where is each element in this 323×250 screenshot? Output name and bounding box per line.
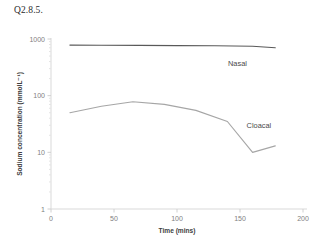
y-tick-label: 10 xyxy=(37,149,45,156)
series-line-cloacal xyxy=(70,102,275,153)
x-tick-label: 50 xyxy=(110,215,118,222)
figure-container: Q2.8.5. 1101001000050100150200Time (mins… xyxy=(0,0,323,250)
line-chart: 1101001000050100150200Time (mins)Sodium … xyxy=(0,0,323,250)
x-axis-title: Time (mins) xyxy=(159,227,196,235)
series-line-nasal xyxy=(70,45,275,48)
y-tick-label: 1 xyxy=(41,206,45,213)
x-tick-label: 150 xyxy=(234,215,246,222)
x-tick-label: 100 xyxy=(171,215,183,222)
y-axis-title: Sodium concentration (mmolL⁻¹) xyxy=(16,72,24,176)
series-label-cloacal: Cloacal xyxy=(247,121,272,130)
x-tick-label: 200 xyxy=(297,215,309,222)
y-tick-label: 100 xyxy=(33,92,45,99)
x-tick-label: 0 xyxy=(49,215,53,222)
series-label-nasal: Nasal xyxy=(228,59,247,68)
y-tick-label: 1000 xyxy=(29,36,45,43)
